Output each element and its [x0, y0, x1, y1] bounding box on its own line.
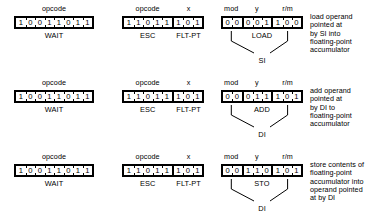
- bit-cell: 1: [153, 166, 163, 175]
- byte-field-group: modyr/m00011101ADDDI: [221, 78, 303, 115]
- bit-cell: 0: [232, 92, 241, 101]
- bit-field-box: 10011011: [14, 164, 94, 177]
- mnemonic-label-row: ESCFLT-PT: [122, 177, 204, 189]
- bit-cell: 0: [232, 18, 241, 27]
- mnemonic-flt-pt: FLT-PT: [173, 179, 204, 188]
- bit-cell: 1: [83, 166, 93, 175]
- field-label-opcode: opcode: [122, 4, 173, 13]
- bit-cell: 1: [172, 18, 184, 27]
- field-label-rm: r/m: [272, 152, 303, 161]
- mnemonic-wait: WAIT: [14, 179, 94, 188]
- connector-lines: [221, 105, 303, 131]
- mnemonic-label-row: ESCFLT-PT: [122, 103, 204, 115]
- bit-cell: 1: [262, 18, 271, 27]
- bit-cell: 1: [162, 166, 172, 175]
- bit-cell: 1: [83, 92, 93, 101]
- mnemonic-flt-pt: FLT-PT: [173, 105, 204, 114]
- bit-cell: 1: [153, 92, 163, 101]
- field-label-rm: r/m: [272, 4, 303, 13]
- mnemonic-wait: WAIT: [14, 105, 94, 114]
- field-label-row: modyr/m: [221, 4, 303, 16]
- field-label-row: opcodex: [122, 78, 204, 90]
- bit-field-box: 10011011: [14, 90, 94, 103]
- field-label-row: opcode: [14, 152, 94, 164]
- bit-cell: 0: [262, 166, 271, 175]
- bit-cell: 0: [283, 92, 292, 101]
- field-label-mod: mod: [221, 4, 242, 13]
- mnemonic-flt-pt: FLT-PT: [173, 31, 204, 40]
- field-label-opcode: opcode: [14, 152, 94, 161]
- bit-cell: 1: [253, 92, 262, 101]
- bit-cell: 1: [172, 166, 184, 175]
- bit-cell: 1: [253, 166, 262, 175]
- instruction-row: opcode10011011WAITopcodex11011101ESCFLT-…: [0, 78, 387, 152]
- bit-cell: 1: [292, 92, 301, 101]
- register-label: SI: [221, 56, 303, 65]
- mnemonic-esc: ESC: [122, 105, 173, 114]
- instruction-description: store contents of floating-point accumul…: [310, 161, 364, 202]
- bit-cell: 0: [143, 92, 153, 101]
- bit-cell: 1: [193, 166, 203, 175]
- bit-cell: 0: [143, 166, 153, 175]
- byte-field-group: opcodex11011101ESCFLT-PT: [122, 4, 204, 41]
- byte-field-group: modyr/m00001100LOADSI: [221, 4, 303, 41]
- bit-cell: 1: [271, 18, 282, 27]
- field-label-x: x: [173, 4, 204, 13]
- field-label-y: y: [242, 78, 273, 87]
- bit-cell: 1: [162, 18, 172, 27]
- bit-cell: 1: [271, 92, 282, 101]
- bit-cell: 1: [172, 92, 184, 101]
- field-label-y: y: [242, 4, 273, 13]
- bit-cell: 1: [73, 166, 83, 175]
- bit-cell: 0: [35, 166, 45, 175]
- bit-cell: 1: [292, 166, 301, 175]
- mnemonic-label-row: WAIT: [14, 29, 94, 41]
- bit-cell: 0: [64, 92, 74, 101]
- bit-cell: 0: [283, 166, 292, 175]
- register-label: DI: [221, 204, 303, 213]
- bit-cell: 1: [271, 166, 282, 175]
- bit-cell: 1: [45, 166, 55, 175]
- bit-cell: 1: [83, 18, 93, 27]
- bit-cell: 1: [54, 92, 64, 101]
- byte-field-group: opcodex11011101ESCFLT-PT: [122, 152, 204, 189]
- mnemonic-esc: ESC: [122, 179, 173, 188]
- bit-cell: 0: [35, 18, 45, 27]
- instruction-row: opcode10011011WAITopcodex11011101ESCFLT-…: [0, 152, 387, 224]
- field-label-mod: mod: [221, 152, 242, 161]
- byte-field-group: modyr/m00110101STODI: [221, 152, 303, 189]
- connector-from-mod: [231, 179, 254, 201]
- bit-cell: 1: [73, 92, 83, 101]
- bit-cell: 1: [134, 18, 144, 27]
- connector-lines: [221, 179, 303, 205]
- bit-cell: 1: [124, 18, 134, 27]
- field-label-row: modyr/m: [221, 78, 303, 90]
- field-label-opcode: opcode: [122, 78, 173, 87]
- connector-from-mod: [231, 105, 254, 127]
- field-label-row: opcodex: [122, 152, 204, 164]
- bit-cell: 1: [16, 92, 26, 101]
- bit-cell: 0: [242, 92, 253, 101]
- field-label-mod: mod: [221, 78, 242, 87]
- bit-cell: 0: [253, 18, 262, 27]
- field-label-row: opcode: [14, 78, 94, 90]
- field-label-row: modyr/m: [221, 152, 303, 164]
- bit-cell: 0: [223, 92, 232, 101]
- bit-cell: 0: [183, 18, 193, 27]
- bit-cell: 1: [73, 18, 83, 27]
- bit-cell: 0: [223, 18, 232, 27]
- bit-cell: 1: [16, 18, 26, 27]
- byte-field-group: opcodex11011101ESCFLT-PT: [122, 78, 204, 115]
- field-label-row: opcodex: [122, 4, 204, 16]
- bit-cell: 0: [242, 18, 253, 27]
- bit-cell: 1: [54, 18, 64, 27]
- bit-field-box: 00001100: [221, 16, 303, 29]
- bit-cell: 1: [162, 92, 172, 101]
- connector-from-mod: [231, 31, 254, 53]
- mnemonic-wait: WAIT: [14, 31, 94, 40]
- bit-cell: 1: [45, 92, 55, 101]
- instruction-encoding-diagram: opcode10011011WAITopcodex11011101ESCFLT-…: [0, 0, 387, 224]
- instruction-description: add operand pointed at by DI to floating…: [310, 87, 352, 128]
- instruction-row: opcode10011011WAITopcodex11011101ESCFLT-…: [0, 4, 387, 78]
- bit-field-box: 10011011: [14, 16, 94, 29]
